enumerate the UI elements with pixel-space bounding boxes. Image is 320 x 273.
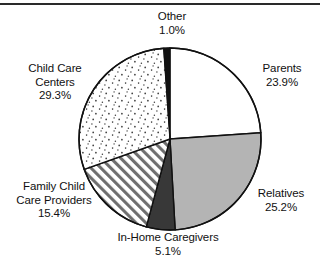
pie-slice-relatives[interactable]	[170, 133, 261, 230]
pie-label-family-child-care-providers: Family Child Care Providers 15.4%	[2, 180, 106, 221]
pie-label-parents-percent: 23.9%	[246, 76, 318, 90]
pie-label-child-care-centers-name-line1: Child Care	[10, 62, 100, 76]
pie-label-family-child-care-providers-percent: 15.4%	[2, 207, 106, 221]
pie-label-child-care-centers-percent: 29.3%	[10, 89, 100, 103]
pie-slices-group	[79, 48, 261, 230]
pie-label-relatives: Relatives 25.2%	[244, 187, 318, 214]
pie-label-in-home-caregivers: In-Home Caregivers 5.1%	[98, 231, 238, 258]
pie-label-other-name: Other	[132, 10, 212, 24]
pie-label-other-percent: 1.0%	[132, 24, 212, 38]
pie-label-parents-name: Parents	[246, 62, 318, 76]
pie-label-family-child-care-providers-name-line2: Care Providers	[2, 194, 106, 208]
pie-label-relatives-name: Relatives	[244, 187, 318, 201]
pie-label-parents: Parents 23.9%	[246, 62, 318, 89]
pie-label-child-care-centers-name-line2: Centers	[10, 76, 100, 90]
pie-label-child-care-centers: Child Care Centers 29.3%	[10, 62, 100, 103]
pie-label-relatives-percent: 25.2%	[244, 201, 318, 215]
pie-label-in-home-caregivers-percent: 5.1%	[98, 245, 238, 259]
pie-chart-figure: Other 1.0% Parents 23.9% Relatives 25.2%…	[0, 0, 320, 273]
pie-label-family-child-care-providers-name-line1: Family Child	[2, 180, 106, 194]
pie-label-other: Other 1.0%	[132, 10, 212, 37]
pie-label-in-home-caregivers-name: In-Home Caregivers	[98, 231, 238, 245]
